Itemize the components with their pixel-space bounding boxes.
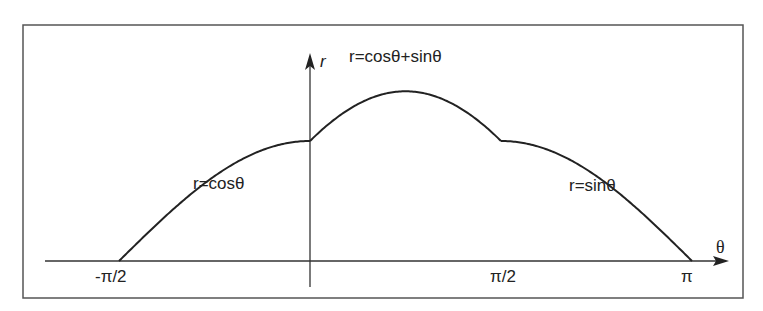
- plot-canvas: r θ -π/2 π/2 π r=cosθ r=cosθ+sinθ r=sinθ: [0, 0, 763, 311]
- label-r-cos-plus-sin-theta: r=cosθ+sinθ: [349, 47, 442, 66]
- tick-label-pi-over-2: π/2: [490, 267, 516, 286]
- curve-r-sin-theta: [501, 141, 692, 261]
- label-r-cos-theta: r=cosθ: [193, 174, 245, 193]
- tick-label-neg-pi-over-2: -π/2: [95, 267, 127, 286]
- label-r-sin-theta: r=sinθ: [569, 176, 616, 195]
- piecewise-polar-function-plot: r θ -π/2 π/2 π r=cosθ r=cosθ+sinθ r=sinθ: [0, 0, 763, 311]
- curve-r-cos-theta: [119, 141, 310, 261]
- curve-r-cos-plus-sin-theta: [310, 91, 501, 141]
- theta-axis-label: θ: [716, 237, 725, 257]
- r-axis-label: r: [320, 52, 327, 71]
- tick-label-pi: π: [681, 267, 693, 286]
